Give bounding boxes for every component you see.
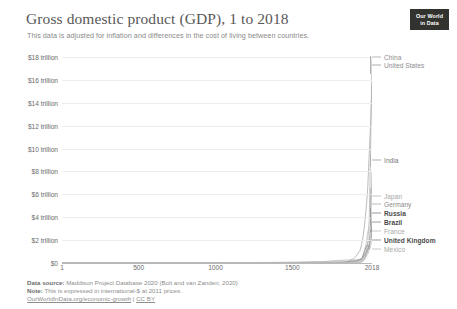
- series-line[interactable]: [62, 232, 372, 263]
- series-label-japan[interactable]: Japan: [384, 193, 402, 200]
- page-title: Gross domestic product (GDP), 1 to 2018: [26, 10, 289, 28]
- series-label-connector: [372, 57, 381, 58]
- gridline: [62, 80, 372, 81]
- y-axis-tick-label: $16 trillion: [28, 76, 58, 83]
- y-axis-tick-label: $8 trillion: [32, 168, 58, 175]
- y-axis-tick-label: $12 trillion: [28, 122, 58, 129]
- gridline: [62, 126, 372, 127]
- gridline: [62, 149, 372, 150]
- series-label-connector: [372, 222, 381, 223]
- series-label-leader: [370, 232, 371, 243]
- x-axis: 1500100015002018: [62, 264, 372, 278]
- y-axis-tick-label: $4 trillion: [32, 214, 58, 221]
- x-axis-tick-label: 1500: [285, 264, 300, 271]
- gridline: [62, 57, 372, 58]
- x-axis-tick-label: 1: [60, 264, 64, 271]
- series-label-india[interactable]: India: [384, 157, 399, 164]
- series-label-russia[interactable]: Russia: [384, 210, 406, 217]
- gridline: [62, 103, 372, 104]
- series-label-france[interactable]: France: [384, 228, 405, 235]
- series-line[interactable]: [62, 223, 372, 263]
- gridline: [62, 217, 372, 218]
- series-label-leader: [370, 56, 371, 74]
- series-legend: ChinaUnited StatesIndiaJapanGermanyRussi…: [372, 0, 457, 309]
- y-axis-tick-label: $0: [51, 260, 58, 267]
- y-axis-tick-label: $6 trillion: [32, 191, 58, 198]
- series-line[interactable]: [62, 238, 372, 263]
- chart-subtitle: This data is adjusted for inflation and …: [27, 31, 309, 40]
- series-label-connector: [372, 213, 381, 214]
- y-axis-tick-label: $14 trillion: [28, 99, 58, 106]
- footer-note-text: This is expressed in international-$ at …: [44, 287, 181, 294]
- series-label-connector: [372, 240, 381, 241]
- footer-note-row: Note: This is expressed in international…: [27, 287, 238, 295]
- series-label-leader: [370, 154, 371, 167]
- y-axis-tick-label: $18 trillion: [28, 54, 58, 61]
- series-line[interactable]: [62, 233, 372, 263]
- series-line[interactable]: [62, 213, 372, 263]
- plot-area: [62, 57, 372, 263]
- series-label-connector: [372, 249, 381, 250]
- x-axis-tick-label: 500: [133, 264, 144, 271]
- footer-note-label: Note:: [27, 287, 43, 294]
- series-label-united-kingdom[interactable]: United Kingdom: [384, 237, 436, 244]
- footer-source-row: Data source: Maddison Project Database 2…: [27, 279, 238, 287]
- series-label-united-states[interactable]: United States: [384, 62, 424, 69]
- series-label-china[interactable]: China: [384, 54, 401, 61]
- series-line[interactable]: [62, 228, 372, 263]
- footer-link-row: OurWorldInData.org/economic-growth | CC …: [27, 295, 238, 303]
- series-label-connector: [372, 160, 381, 161]
- footer-source-label: Data source:: [27, 279, 64, 286]
- series-line[interactable]: [62, 58, 372, 263]
- footer-source-text: Maddison Project Database 2020 (Bolt and…: [66, 279, 238, 286]
- series-label-brazil[interactable]: Brazil: [384, 219, 402, 226]
- plot-lines: [62, 57, 372, 263]
- series-label-connector: [372, 196, 381, 197]
- series-label-leader: [370, 219, 371, 225]
- x-axis-tick-label: 1000: [208, 264, 223, 271]
- gdp-chart: Gross domestic product (GDP), 1 to 2018 …: [0, 0, 457, 309]
- gridline: [62, 240, 372, 241]
- chart-footer: Data source: Maddison Project Database 2…: [27, 279, 238, 304]
- series-label-connector: [372, 204, 381, 205]
- series-line[interactable]: [62, 83, 372, 263]
- y-axis-tick-label: $2 trillion: [32, 237, 58, 244]
- series-label-connector: [372, 65, 381, 66]
- series-label-connector: [372, 231, 381, 232]
- series-label-leader: [370, 208, 371, 218]
- license-link[interactable]: CC BY: [136, 295, 155, 302]
- series-label-mexico[interactable]: Mexico: [384, 246, 405, 253]
- gridline: [62, 194, 372, 195]
- y-axis: $0$2 trillion$4 trillion$6 trillion$8 tr…: [0, 57, 58, 263]
- gridline: [62, 171, 372, 172]
- series-label-germany[interactable]: Germany: [384, 201, 411, 208]
- owid-link[interactable]: OurWorldInData.org/economic-growth: [27, 295, 131, 302]
- y-axis-tick-label: $10 trillion: [28, 145, 58, 152]
